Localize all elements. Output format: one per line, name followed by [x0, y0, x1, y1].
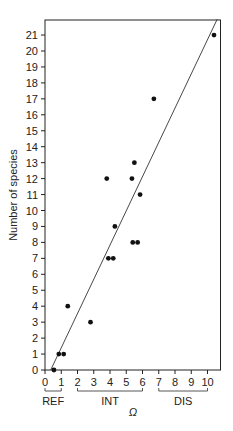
y-tick-label: 14 — [26, 141, 38, 153]
x-axis-title: Ω — [129, 406, 137, 418]
data-point — [112, 224, 117, 229]
group-bracket — [78, 388, 143, 391]
x-tick-label: 4 — [107, 376, 113, 388]
x-tick-label: 3 — [91, 376, 97, 388]
y-tick-label: 19 — [26, 61, 38, 73]
data-point — [106, 256, 111, 261]
data-point — [151, 96, 156, 101]
y-tick-label: 20 — [26, 45, 38, 57]
y-tick-label: 18 — [26, 77, 38, 89]
data-point — [61, 352, 66, 357]
data-point — [212, 33, 217, 38]
data-point — [135, 240, 140, 245]
group-bracket — [45, 388, 61, 391]
y-tick-label: 0 — [32, 364, 38, 376]
y-tick-label: 8 — [32, 236, 38, 248]
x-tick-label: 0 — [42, 376, 48, 388]
y-tick-label: 11 — [27, 189, 38, 201]
group-label-dis: DIS — [174, 395, 192, 407]
y-tick-label: 17 — [26, 93, 38, 105]
category-brackets: REFINTDIS — [42, 388, 207, 407]
y-tick-label: 13 — [26, 157, 38, 169]
y-tick-label: 21 — [26, 29, 38, 41]
y-tick-label: 4 — [32, 300, 38, 312]
y-axis-title: Number of species — [7, 149, 19, 241]
group-label-ref: REF — [42, 395, 64, 407]
x-tick-label: 9 — [188, 376, 194, 388]
y-tick-label: 10 — [26, 205, 38, 217]
x-tick-label: 7 — [156, 376, 162, 388]
y-tick-label: 2 — [32, 332, 38, 344]
plot-frame — [45, 20, 221, 370]
y-tick-label: 6 — [32, 268, 38, 280]
group-bracket — [159, 388, 208, 391]
data-point — [130, 176, 135, 181]
scatter-chart: 0123456789101112131415161718192021 01234… — [0, 0, 233, 431]
y-tick-label: 3 — [32, 316, 38, 328]
data-point — [104, 176, 109, 181]
data-point — [132, 160, 137, 165]
y-tick-label: 15 — [26, 125, 38, 137]
data-point — [52, 368, 57, 373]
x-tick-label: 5 — [123, 376, 129, 388]
y-tick-label: 12 — [26, 173, 38, 185]
y-tick-label: 16 — [26, 109, 38, 121]
data-point — [88, 320, 93, 325]
data-points — [52, 33, 217, 373]
x-tick-label: 1 — [58, 376, 64, 388]
y-axis: 0123456789101112131415161718192021 — [26, 29, 45, 376]
y-tick-label: 9 — [32, 220, 38, 232]
group-label-int: INT — [101, 395, 119, 407]
x-tick-label: 6 — [139, 376, 145, 388]
y-tick-label: 1 — [32, 348, 38, 360]
x-tick-label: 10 — [201, 376, 213, 388]
x-tick-label: 2 — [74, 376, 80, 388]
data-point — [130, 240, 135, 245]
y-tick-label: 5 — [32, 284, 38, 296]
x-axis: 012345678910 — [42, 370, 214, 388]
data-point — [65, 304, 70, 309]
data-point — [138, 192, 143, 197]
data-point — [56, 352, 61, 357]
y-tick-label: 7 — [32, 252, 38, 264]
regression-line — [51, 19, 218, 370]
data-point — [111, 256, 116, 261]
x-tick-label: 8 — [172, 376, 178, 388]
